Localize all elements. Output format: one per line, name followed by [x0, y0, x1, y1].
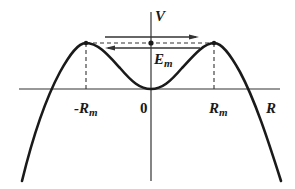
energy-label-sub: m	[164, 57, 173, 69]
right-arrowhead-icon	[189, 35, 199, 40]
left-arrowhead-icon	[105, 46, 115, 51]
pos-rm-label: Rm	[209, 101, 228, 118]
r-axis-label: R	[266, 101, 276, 116]
pos-rm-label-main: R	[209, 100, 219, 116]
potential-diagram: V Em -Rm 0 Rm R	[0, 0, 295, 189]
neg-rm-label: -Rm	[74, 101, 98, 118]
neg-peak-dot	[84, 41, 88, 45]
energy-label: Em	[154, 52, 173, 69]
diagram-svg	[0, 0, 295, 189]
pos-rm-label-sub: m	[219, 106, 228, 118]
pos-peak-dot	[212, 41, 216, 45]
energy-label-main: E	[154, 51, 164, 67]
neg-rm-label-sub: m	[89, 106, 98, 118]
center-dot	[148, 40, 153, 45]
origin-label: 0	[140, 101, 148, 116]
v-axis-label: V	[155, 9, 165, 24]
neg-rm-label-main: -R	[74, 100, 89, 116]
